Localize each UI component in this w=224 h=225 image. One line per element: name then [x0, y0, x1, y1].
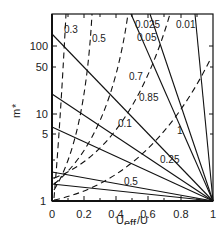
svg-text:1: 1	[210, 208, 216, 220]
svg-text:0.25: 0.25	[160, 154, 180, 165]
svg-text:5: 5	[42, 128, 48, 140]
svg-text:0.8: 0.8	[173, 208, 188, 220]
svg-text:0.5: 0.5	[92, 33, 106, 44]
svg-text:0.7: 0.7	[129, 71, 143, 82]
svg-text:m: m	[10, 109, 22, 118]
y-axis-label: m *	[10, 103, 22, 118]
y-tick-labels: 100 50 10 5 1	[30, 40, 48, 207]
svg-text:0.1: 0.1	[118, 118, 132, 129]
svg-text:0.2: 0.2	[76, 208, 91, 220]
svg-text:1: 1	[177, 125, 183, 136]
svg-text:eff: eff	[124, 217, 137, 225]
svg-text:1: 1	[40, 195, 46, 207]
dashed-0.7	[54, 14, 128, 184]
svg-text:0.05: 0.05	[137, 32, 157, 43]
svg-text:0.5: 0.5	[124, 176, 138, 187]
svg-text:0.85: 0.85	[139, 92, 159, 103]
svg-text:0: 0	[49, 208, 55, 220]
x-axis-label: U eff /U	[116, 214, 148, 225]
svg-text:0.01: 0.01	[176, 19, 196, 30]
solid-curves	[52, 14, 213, 201]
svg-text:0.025: 0.025	[135, 19, 160, 30]
svg-text:/U: /U	[137, 214, 148, 225]
dashed-curves	[54, 14, 210, 200]
plot-frame	[52, 14, 213, 201]
svg-text:*: *	[10, 103, 22, 108]
line-0.1	[52, 127, 213, 201]
svg-text:10: 10	[36, 108, 48, 120]
ticks	[52, 14, 213, 201]
svg-text:50: 50	[36, 61, 48, 73]
svg-text:0.3: 0.3	[64, 24, 78, 35]
svg-text:U: U	[116, 214, 124, 225]
svg-text:100: 100	[30, 40, 48, 52]
dashed-0.5	[54, 14, 92, 190]
chart: 100 50 10 5 1 0 0.2 0.4 0.6 0.8 1	[0, 0, 224, 225]
